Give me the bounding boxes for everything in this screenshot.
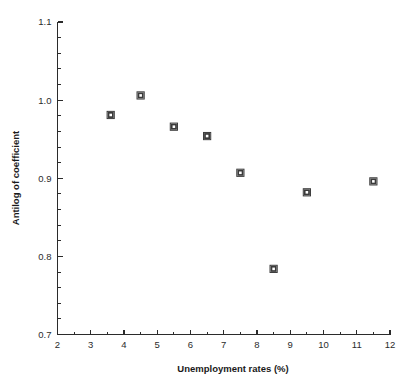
data-point-marker[interactable] [137, 92, 144, 99]
y-tick-label: 1.0 [38, 95, 51, 106]
x-tick-label: 9 [288, 339, 293, 350]
scatter-plot: 0.70.80.91.01.1 23456789101112 Unemploym… [0, 0, 416, 390]
data-point-marker[interactable] [303, 189, 310, 196]
data-point-marker[interactable] [107, 111, 114, 118]
x-tick-label: 10 [318, 339, 329, 350]
x-tick-label: 12 [385, 339, 396, 350]
y-tick-label: 0.7 [38, 329, 51, 340]
chart-page: 0.70.80.91.01.1 23456789101112 Unemploym… [0, 0, 416, 390]
data-point-marker[interactable] [270, 265, 277, 272]
data-point-marker[interactable] [237, 169, 244, 176]
data-point-marker[interactable] [204, 132, 211, 139]
y-axis-title: Antilog of coefficient [10, 130, 21, 225]
x-axis-title: Unemployment rates (%) [177, 363, 288, 374]
y-tick-label: 0.8 [38, 251, 51, 262]
data-point-marker[interactable] [370, 178, 377, 185]
x-tick-label: 8 [254, 339, 259, 350]
y-tick-label: 1.1 [38, 16, 51, 27]
data-point-marker[interactable] [170, 123, 177, 130]
x-tick-label: 3 [88, 339, 93, 350]
x-tick-label: 7 [221, 339, 226, 350]
x-tick-label: 5 [155, 339, 160, 350]
x-tick-label: 2 [55, 339, 60, 350]
x-tick-label: 11 [352, 339, 362, 350]
x-tick-label: 6 [188, 339, 193, 350]
y-tick-label: 0.9 [38, 173, 51, 184]
plot-background [0, 0, 416, 390]
x-tick-label: 4 [121, 339, 126, 350]
